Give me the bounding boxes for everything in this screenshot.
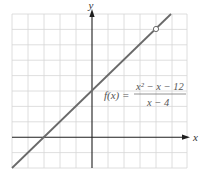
hole-point: [153, 26, 158, 31]
y-axis-label: y: [88, 0, 94, 11]
equation-numerator: x² − x − 12: [135, 81, 184, 92]
x-axis-label: x: [192, 131, 198, 143]
x-axis-arrow-icon: [182, 135, 190, 140]
equation-lhs: f(x) =: [104, 89, 129, 102]
function-graph: x y f(x) = x² − x − 12 x − 4: [0, 0, 199, 180]
equation-denominator: x − 4: [146, 97, 170, 108]
